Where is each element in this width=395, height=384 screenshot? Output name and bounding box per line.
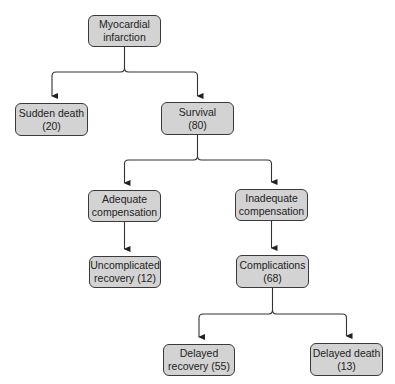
node-inadequate-compensation: Inadequate compensation xyxy=(235,189,308,221)
node-label: Uncomplicated xyxy=(90,259,159,272)
node-adequate-compensation: Adequate compensation xyxy=(88,190,161,222)
node-survival: Survival (80) xyxy=(161,102,234,135)
edge-complications-delayed-death xyxy=(273,310,347,336)
node-label: Sudden death xyxy=(19,107,84,120)
node-delayed-recovery: Delayed recovery (55) xyxy=(163,344,235,376)
node-label: Adequate xyxy=(102,193,147,206)
node-label: Delayed death xyxy=(313,347,381,360)
flowchart-canvas: Myocardial infarction Sudden death (20) … xyxy=(0,0,395,384)
edge-mi-branch xyxy=(52,46,125,96)
edge-survival-inadequate xyxy=(198,156,272,182)
connector-layer xyxy=(0,0,395,384)
node-complications: Complications (68) xyxy=(236,255,309,288)
node-count: (80) xyxy=(188,119,207,132)
edge-survival-adequate xyxy=(125,135,198,183)
node-count: (20) xyxy=(42,120,61,133)
edge-complications-delayed-recovery xyxy=(199,288,273,337)
node-count: (68) xyxy=(263,272,282,285)
node-count: recovery (55) xyxy=(168,360,230,373)
edge-mi-survival xyxy=(125,68,198,96)
node-label: compensation xyxy=(239,205,304,218)
node-myocardial-infarction: Myocardial infarction xyxy=(88,15,161,47)
node-count: (13) xyxy=(337,360,356,373)
node-label: Myocardial xyxy=(99,18,150,31)
node-label: Survival xyxy=(179,106,216,119)
node-label: Delayed xyxy=(180,347,219,360)
node-delayed-death: Delayed death (13) xyxy=(310,343,383,376)
node-sudden-death: Sudden death (20) xyxy=(15,103,88,136)
node-label: infarction xyxy=(103,31,146,44)
node-count: recovery (12) xyxy=(94,272,156,285)
node-label: Complications xyxy=(240,259,306,272)
node-label: Inadequate xyxy=(245,192,298,205)
node-label: compensation xyxy=(92,206,157,219)
node-uncomplicated-recovery: Uncomplicated recovery (12) xyxy=(89,256,161,288)
